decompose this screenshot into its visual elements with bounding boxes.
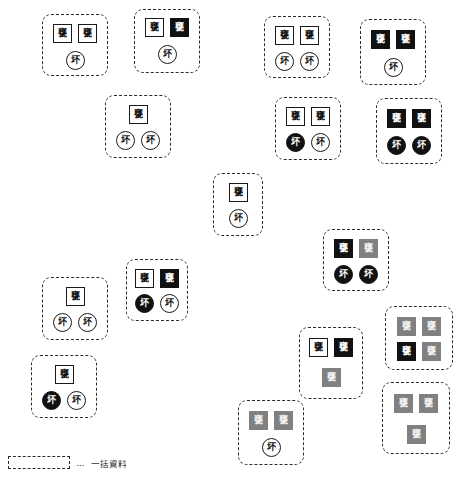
jar-token-gray[interactable]: 甕 <box>419 394 438 413</box>
bowl-token-white[interactable]: 坏 <box>67 391 86 410</box>
bowl-token-white[interactable]: 坏 <box>141 131 160 150</box>
artifact-group[interactable]: 甕甕甕 <box>299 327 363 399</box>
bowl-token-white[interactable]: 坏 <box>66 51 85 70</box>
artifact-group[interactable]: 甕甕坏 <box>238 400 304 465</box>
artifact-row: 甕甕 <box>127 269 187 288</box>
jar-token-gray[interactable]: 甕 <box>422 342 441 361</box>
artifact-row: 甕甕 <box>324 239 388 258</box>
jar-token-white[interactable]: 甕 <box>145 18 164 37</box>
bowl-token-white[interactable]: 坏 <box>311 133 330 152</box>
artifact-group[interactable]: 甕甕坏 <box>42 14 108 76</box>
jar-token-white[interactable]: 甕 <box>129 105 148 124</box>
bowl-token-white[interactable]: 坏 <box>275 52 294 71</box>
artifact-row: 甕甕 <box>43 24 107 43</box>
artifact-row: 坏坏 <box>32 391 96 410</box>
jar-token-white[interactable]: 甕 <box>300 26 319 45</box>
artifact-row: 甕甕 <box>383 394 449 413</box>
artifact-row: 坏坏 <box>276 133 340 152</box>
bowl-token-white[interactable]: 坏 <box>384 58 403 77</box>
bowl-token-white[interactable]: 坏 <box>158 45 177 64</box>
jar-token-gray[interactable]: 甕 <box>422 317 441 336</box>
jar-token-gray[interactable]: 甕 <box>322 368 341 387</box>
bowl-token-white[interactable]: 坏 <box>78 313 97 332</box>
jar-token-black[interactable]: 甕 <box>387 109 406 128</box>
jar-token-black[interactable]: 甕 <box>396 30 415 49</box>
jar-token-gray[interactable]: 甕 <box>249 411 268 430</box>
jar-token-white[interactable]: 甕 <box>309 338 328 357</box>
artifact-row: 坏 <box>239 438 303 457</box>
jar-token-white[interactable]: 甕 <box>286 107 305 126</box>
jar-token-gray[interactable]: 甕 <box>407 425 426 444</box>
artifact-row: 甕甕 <box>239 411 303 430</box>
bowl-token-white[interactable]: 坏 <box>53 313 72 332</box>
bowl-token-white[interactable]: 坏 <box>262 438 281 457</box>
artifact-row: 坏坏 <box>377 136 441 155</box>
jar-token-white[interactable]: 甕 <box>135 269 154 288</box>
bowl-token-black[interactable]: 坏 <box>412 136 431 155</box>
bowl-token-black[interactable]: 坏 <box>334 265 353 284</box>
artifact-row: 坏坏 <box>127 294 187 313</box>
bowl-token-white[interactable]: 坏 <box>229 209 248 228</box>
jar-token-black[interactable]: 甕 <box>160 269 179 288</box>
artifact-group[interactable]: 甕甕坏坏 <box>376 98 442 164</box>
artifact-group[interactable]: 甕甕坏坏 <box>275 97 341 160</box>
artifact-group[interactable]: 甕坏坏 <box>31 355 97 418</box>
artifact-row: 坏坏 <box>265 52 329 71</box>
artifact-row: 甕 <box>106 105 170 124</box>
artifact-group[interactable]: 甕甕坏坏 <box>264 16 330 78</box>
jar-token-gray[interactable]: 甕 <box>274 411 293 430</box>
artifact-group[interactable]: 甕甕坏坏 <box>323 229 389 291</box>
artifact-row: 甕 <box>32 365 96 384</box>
jar-token-black[interactable]: 甕 <box>334 338 353 357</box>
jar-token-black[interactable]: 甕 <box>412 109 431 128</box>
legend-label: 一括資料 <box>91 457 127 469</box>
jar-token-gray[interactable]: 甕 <box>359 239 378 258</box>
artifact-row: 坏 <box>214 209 262 228</box>
artifact-row: 甕甕 <box>300 338 362 357</box>
bowl-token-black[interactable]: 坏 <box>286 133 305 152</box>
artifact-row: 坏坏 <box>43 313 107 332</box>
jar-token-black[interactable]: 甕 <box>397 342 416 361</box>
artifact-group[interactable]: 甕甕坏 <box>134 9 200 73</box>
artifact-row: 坏 <box>135 45 199 64</box>
jar-token-white[interactable]: 甕 <box>66 287 85 306</box>
artifact-row: 甕 <box>214 183 262 202</box>
artifact-row: 甕 <box>43 287 107 306</box>
artifact-row: 甕 <box>383 425 449 444</box>
jar-token-white[interactable]: 甕 <box>53 24 72 43</box>
artifact-row: 甕甕 <box>361 30 425 49</box>
jar-token-white[interactable]: 甕 <box>229 183 248 202</box>
artifact-row: 甕甕 <box>377 109 441 128</box>
bowl-token-black[interactable]: 坏 <box>42 391 61 410</box>
jar-token-gray[interactable]: 甕 <box>397 317 416 336</box>
jar-token-white[interactable]: 甕 <box>78 24 97 43</box>
legend: … 一括資料 <box>8 456 127 469</box>
artifact-group[interactable]: 甕坏 <box>213 173 263 236</box>
bowl-token-black[interactable]: 坏 <box>387 136 406 155</box>
bowl-token-white[interactable]: 坏 <box>160 294 179 313</box>
artifact-group[interactable]: 甕甕甕 <box>382 382 450 454</box>
artifact-group[interactable]: 甕坏坏 <box>42 277 108 340</box>
artifact-group[interactable]: 甕甕坏 <box>360 19 426 85</box>
bowl-token-black[interactable]: 坏 <box>359 265 378 284</box>
artifact-group[interactable]: 甕坏坏 <box>105 95 171 158</box>
artifact-row: 甕甕 <box>276 107 340 126</box>
jar-token-white[interactable]: 甕 <box>55 365 74 384</box>
jar-token-white[interactable]: 甕 <box>311 107 330 126</box>
bowl-token-black[interactable]: 坏 <box>135 294 154 313</box>
bowl-token-white[interactable]: 坏 <box>116 131 135 150</box>
jar-token-black[interactable]: 甕 <box>334 239 353 258</box>
jar-token-black[interactable]: 甕 <box>170 18 189 37</box>
artifact-row: 甕甕 <box>135 18 199 37</box>
jar-token-gray[interactable]: 甕 <box>394 394 413 413</box>
bowl-token-white[interactable]: 坏 <box>300 52 319 71</box>
artifact-group[interactable]: 甕甕坏坏 <box>126 259 188 321</box>
artifact-row: 甕甕 <box>386 342 452 361</box>
jar-token-white[interactable]: 甕 <box>275 26 294 45</box>
artifact-distribution-diagram: 甕甕坏甕甕坏甕坏坏甕甕坏坏甕甕坏甕甕坏坏甕甕坏坏甕坏甕甕坏坏甕甕坏坏甕坏坏甕坏坏… <box>0 0 460 483</box>
artifact-group[interactable]: 甕甕甕甕 <box>385 306 453 370</box>
legend-dots: … <box>76 458 85 468</box>
jar-token-black[interactable]: 甕 <box>371 30 390 49</box>
artifact-row: 甕 <box>300 368 362 387</box>
artifact-row: 甕甕 <box>386 317 452 336</box>
